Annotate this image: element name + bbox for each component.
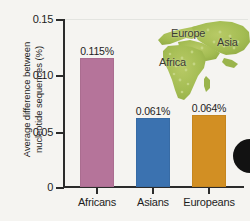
bar-asians <box>136 118 170 187</box>
y-axis-tick-0 <box>56 187 64 189</box>
bar-asians-fill <box>136 118 170 187</box>
page-edge-artifact <box>233 139 250 173</box>
x-axis-tick-europeans <box>208 188 210 194</box>
bar-africans <box>80 58 114 187</box>
map-label-asia: Asia <box>217 36 238 48</box>
map-label-africa: Africa <box>159 56 186 68</box>
x-axis-label-europeans: Europeans <box>183 196 234 208</box>
x-axis-label-africans: Africans <box>78 196 116 208</box>
y-axis-tick-0.15 <box>56 19 64 21</box>
y-axis-tick-label-0.05: 0.05 <box>13 126 53 138</box>
bar-europeans <box>192 115 226 187</box>
x-axis-label-asians: Asians <box>137 196 169 208</box>
y-axis-tick-label-0: 0 <box>13 181 53 193</box>
bar-chart-figure: Average difference between nucleotide se… <box>0 0 250 221</box>
y-axis-line <box>63 19 65 188</box>
landmass-madagascar <box>204 76 210 92</box>
bar-europeans-fill <box>192 115 226 187</box>
x-axis-tick-asians <box>152 188 154 194</box>
landmass-southeast-asia <box>222 58 238 68</box>
y-axis-tick-label-0.10: 0.10 <box>13 69 53 81</box>
bar-value-africans: 0.115% <box>80 45 114 57</box>
world-map-inset: Europe Asia Africa <box>148 14 250 104</box>
y-axis-tick-label-0.15: 0.15 <box>13 13 53 25</box>
x-axis-tick-africans <box>96 188 98 194</box>
map-label-europe: Europe <box>171 27 205 39</box>
bar-africans-fill <box>80 58 114 187</box>
y-axis-tick-0.10 <box>56 75 64 77</box>
y-axis-title-line1: Average difference between <box>21 42 32 157</box>
y-axis-tick-0.05 <box>56 132 64 134</box>
bar-value-asians: 0.061% <box>136 105 170 117</box>
y-axis-title: Average difference between nucleotide se… <box>21 5 44 195</box>
